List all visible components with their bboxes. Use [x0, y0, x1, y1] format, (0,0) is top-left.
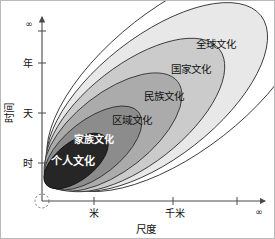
x-axis-title: 尺度	[136, 223, 157, 235]
label-global-culture: 全球文化	[196, 38, 237, 50]
diagram-canvas: 全球文化 国家文化 民族文化 区域文化 家族文化 个人文化 米 千米 ∞ 时 天…	[1, 1, 275, 239]
y-tick-label-day: 天	[23, 108, 33, 119]
x-tick-label-meter: 米	[89, 207, 99, 219]
label-national-culture: 国家文化	[171, 63, 212, 75]
label-family-culture: 家族文化	[74, 133, 114, 145]
x-axis-infinity-symbol: ∞	[255, 207, 263, 217]
label-regional-culture: 区域文化	[112, 114, 153, 126]
label-ethnic-culture: 民族文化	[144, 90, 185, 102]
label-individual-culture: 个人文化	[50, 154, 95, 168]
y-tick-label-year: 年	[23, 57, 33, 69]
x-tick-label-kilometer: 千米	[165, 207, 185, 219]
y-axis-infinity-symbol: ∞	[25, 19, 33, 29]
y-tick-label-hour: 时	[23, 158, 33, 169]
culture-scale-time-diagram: 全球文化 国家文化 民族文化 区域文化 家族文化 个人文化 米 千米 ∞ 时 天…	[0, 0, 275, 239]
y-axis-title: 时间	[3, 103, 15, 123]
